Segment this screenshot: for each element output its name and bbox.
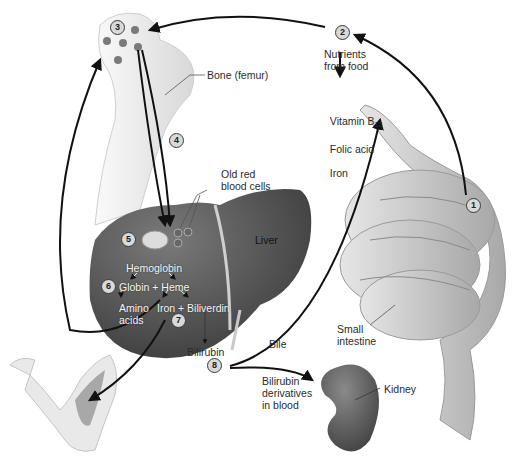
small-intestine-label: Small intestine [337, 323, 376, 347]
vitamins-label: Vitamin B12 Folic acid Iron [324, 103, 382, 179]
step-4-marker: 4 [169, 133, 184, 148]
bilirubin-label: Bilirubin [187, 346, 224, 358]
step-8-marker: 8 [207, 358, 222, 373]
kidney-illustration [321, 364, 379, 451]
hemoglobin-label: Hemoglobin [126, 262, 182, 274]
macrophage-cell [142, 231, 168, 249]
bone-label: Bone (femur) [207, 69, 268, 81]
step-3-marker: 3 [110, 20, 125, 35]
old-rbc-label: Old red blood cells [221, 168, 271, 192]
iron-biliverdin-label: Iron + Biliverdin [157, 302, 230, 314]
folic-acid-label: Folic acid [330, 143, 374, 155]
iron-nutrient-label: Iron [330, 167, 348, 179]
kidney-label: Kidney [384, 383, 416, 395]
femur-bone-illustration [95, 13, 194, 225]
vitamin-b12-label: Vitamin B [330, 115, 375, 127]
arrow-2-to-3 [150, 17, 325, 30]
step-7-marker: 7 [171, 313, 186, 328]
step-2-marker: 2 [335, 25, 350, 40]
bile-label: Bile [269, 338, 287, 350]
step-5-marker: 5 [121, 232, 136, 247]
step-1-marker: 1 [466, 198, 481, 213]
amino-acids-label: Amino acids [119, 302, 149, 326]
nutrients-label: Nutrients from food [324, 48, 368, 72]
step-6-marker: 6 [101, 279, 116, 294]
arm-muscle-illustration [10, 355, 117, 451]
vitamin-subscript: 12 [375, 121, 383, 128]
bilirubin-derivatives-label: Bilirubin derivatives in blood [262, 375, 312, 411]
globin-heme-label: Globin + Heme [119, 281, 189, 293]
liver-label: Liver [255, 234, 278, 246]
